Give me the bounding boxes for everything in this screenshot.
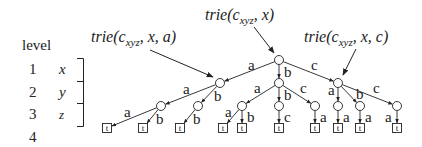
leaf-node: t — [275, 123, 284, 133]
edge-label: b — [356, 86, 364, 102]
trie-node — [275, 102, 284, 111]
tree-edge — [342, 85, 392, 105]
tree-edges: abcababcabcabbabcaaaa — [112, 57, 397, 127]
edge-label: a — [365, 109, 372, 125]
leaf-node: t — [311, 123, 320, 133]
edge-label: b — [156, 111, 164, 127]
edge-label: a — [225, 104, 232, 120]
leaf-node: t — [176, 123, 185, 133]
level-variable: y — [57, 84, 66, 100]
leaf-node: t — [139, 123, 148, 133]
level-header: level — [22, 37, 51, 53]
annotation-a: trie(cxyz, x, a) — [91, 28, 176, 48]
edge-label: c — [373, 80, 380, 96]
annotation-root: trie(cxyz, x) — [205, 6, 274, 26]
edge-label: b — [284, 87, 292, 103]
annotation-arrow-a — [150, 50, 213, 77]
level-bracket — [77, 59, 84, 127]
leaf-node: t — [334, 123, 343, 133]
edge-label: a — [248, 57, 255, 73]
leaf-node: t — [238, 123, 247, 133]
edge-label: c — [284, 109, 291, 125]
level-variable: x — [58, 61, 66, 77]
level-legend: level 1 x 2 y 3 z 4 — [22, 37, 84, 145]
trie-node — [275, 79, 284, 88]
leaf-node: t — [356, 123, 365, 133]
edge-label: c — [311, 57, 318, 73]
edge-label: a — [320, 109, 327, 125]
trie-node — [334, 79, 343, 88]
annotations: trie(cxyz, x) trie(cxyz, x, a) trie(cxyz… — [91, 6, 388, 77]
trie-node — [216, 79, 225, 88]
trie-node — [334, 102, 343, 111]
edge-label: a — [183, 81, 190, 97]
edge-label: b — [284, 64, 292, 80]
level-number: 2 — [29, 84, 37, 100]
edge-label: a — [254, 80, 261, 96]
leaf-node: t — [103, 123, 112, 133]
trie-diagram-svg: level 1 x 2 y 3 z 4 trie(cxyz, x) trie(c… — [0, 0, 422, 147]
tree-edge — [112, 108, 157, 126]
tree-edge — [246, 85, 275, 103]
tree-edge — [341, 86, 356, 102]
annotation-arrow-c — [343, 49, 356, 75]
level-number: 3 — [29, 106, 37, 122]
trie-node — [238, 102, 247, 111]
leaf-node: t — [219, 123, 228, 133]
edge-label: a — [124, 104, 131, 120]
edge-label: b — [214, 88, 222, 104]
leaf-node: t — [393, 123, 402, 133]
edge-label: c — [300, 80, 307, 96]
tree-nodes — [157, 56, 402, 111]
edge-label: a — [385, 109, 392, 125]
trie-node — [275, 56, 284, 65]
trie-node — [311, 102, 320, 111]
edge-label: b — [193, 111, 201, 127]
annotation-c: trie(cxyz, x, c) — [304, 28, 388, 48]
level-variable: z — [58, 107, 64, 122]
level-number: 4 — [29, 129, 37, 145]
trie-diagram: level 1 x 2 y 3 z 4 trie(cxyz, x) trie(c… — [0, 0, 422, 147]
tree-edge — [166, 85, 216, 105]
trie-node — [194, 102, 203, 111]
trie-node — [356, 102, 365, 111]
level-number: 1 — [29, 61, 37, 77]
edge-label: a — [343, 109, 350, 125]
edge-label: b — [247, 109, 255, 125]
annotation-arrow-root — [254, 27, 274, 53]
trie-node — [157, 102, 166, 111]
trie-node — [393, 102, 402, 111]
